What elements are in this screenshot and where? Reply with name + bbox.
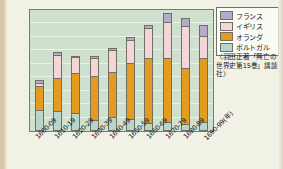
chart-legend: フランスイギリスオランダポルトガル — [216, 7, 279, 56]
bar-segment — [109, 50, 116, 72]
stacked-bar — [163, 13, 172, 131]
y-axis: (隻) 450400350300250200150100500 — [0, 0, 29, 141]
stacked-bar — [199, 25, 208, 131]
bar-segment — [54, 78, 61, 111]
bar-segment — [182, 68, 189, 124]
bar-segment — [200, 26, 207, 35]
bar-segment — [54, 55, 61, 78]
bar-segment — [164, 22, 171, 59]
bar-segment — [164, 58, 171, 121]
source-note: 〈羽田正著「興亡の世界史第15巻」講談社〉 — [216, 53, 279, 79]
bar-group — [53, 10, 62, 131]
bar-segment — [72, 57, 79, 73]
bar-segment — [109, 72, 116, 117]
bar-segment — [182, 19, 189, 26]
legend-item: フランス — [220, 11, 276, 21]
bar-group — [163, 10, 172, 131]
stacked-bar — [144, 25, 153, 131]
stacked-bar — [181, 18, 190, 131]
chart-page: (隻) 450400350300250200150100500 1600-091… — [0, 0, 283, 169]
bar-segment — [145, 58, 152, 124]
legend-label: フランス — [236, 11, 263, 21]
legend-item: イギリス — [220, 21, 276, 31]
bar-group — [126, 10, 135, 131]
legend-swatch-icon — [220, 32, 233, 41]
bar-group — [90, 10, 99, 131]
bar-segment — [127, 63, 134, 120]
bar-group — [144, 10, 153, 131]
bar-segment — [91, 76, 98, 119]
legend-label: イギリス — [236, 21, 263, 31]
bar-segment — [72, 73, 79, 113]
legend-label: オランダ — [236, 32, 263, 42]
x-axis: 1600-091610-191620-291630-391640-491650-… — [29, 133, 214, 169]
bar-group — [35, 10, 44, 131]
bar-segment — [36, 86, 43, 110]
bar-segment — [127, 40, 134, 63]
stacked-bar — [35, 80, 44, 131]
legend-swatch-icon — [220, 11, 233, 20]
bar-segment — [200, 36, 207, 59]
legend-label: ポルトガル — [236, 42, 270, 52]
legend-swatch-icon — [220, 43, 233, 52]
bar-series-container — [30, 10, 213, 131]
bar-group — [181, 10, 190, 131]
bar-segment — [164, 14, 171, 22]
bar-segment — [182, 26, 189, 68]
plot-area — [29, 9, 214, 132]
bar-segment — [200, 58, 207, 122]
legend-swatch-icon — [220, 22, 233, 31]
bar-group — [108, 10, 117, 131]
bar-segment — [145, 28, 152, 58]
legend-item: ポルトガル — [220, 42, 276, 52]
legend-item: オランダ — [220, 32, 276, 42]
bar-group — [199, 10, 208, 131]
bar-segment — [91, 58, 98, 76]
bar-group — [71, 10, 80, 131]
